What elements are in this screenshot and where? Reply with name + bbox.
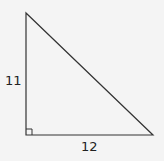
right-triangle — [26, 13, 153, 135]
triangle-diagram: 11 12 — [0, 0, 164, 161]
horizontal-leg-label: 12 — [81, 139, 98, 154]
vertical-leg-label: 11 — [5, 73, 22, 88]
right-angle-marker — [26, 129, 32, 135]
